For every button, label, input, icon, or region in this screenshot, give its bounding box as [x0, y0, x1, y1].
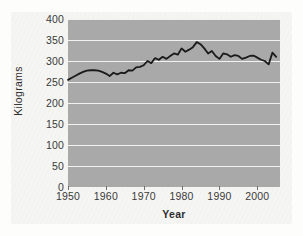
x-tick-label-1960: 1960: [94, 191, 118, 202]
chart-screenshot: 400350300250200150100500 195019601970198…: [0, 0, 303, 236]
y-tick-label-300: 300: [46, 56, 64, 67]
y-tick-label-150: 150: [46, 119, 64, 130]
x-axis-tick-labels: 195019601970198019902000: [68, 191, 280, 207]
y-tick-label-400: 400: [46, 14, 64, 25]
x-tick-label-1980: 1980: [169, 191, 193, 202]
y-axis-tick-labels: 400350300250200150100500: [31, 19, 64, 187]
x-axis-title: Year: [68, 208, 280, 220]
x-tick-label-1950: 1950: [56, 191, 80, 202]
plot-area: [68, 19, 280, 187]
y-tick-label-200: 200: [46, 98, 64, 109]
x-tick-label-1970: 1970: [132, 191, 156, 202]
y-tick-label-50: 50: [52, 161, 64, 172]
y-axis-title: Kilograms: [12, 46, 24, 136]
series-line-kilograms: [68, 42, 276, 80]
y-tick-label-250: 250: [46, 77, 64, 88]
series-line-chart: [68, 19, 280, 187]
x-tick-label-1990: 1990: [207, 191, 231, 202]
y-tick-label-100: 100: [46, 140, 64, 151]
x-tick-label-2000: 2000: [245, 191, 269, 202]
y-tick-label-350: 350: [46, 35, 64, 46]
